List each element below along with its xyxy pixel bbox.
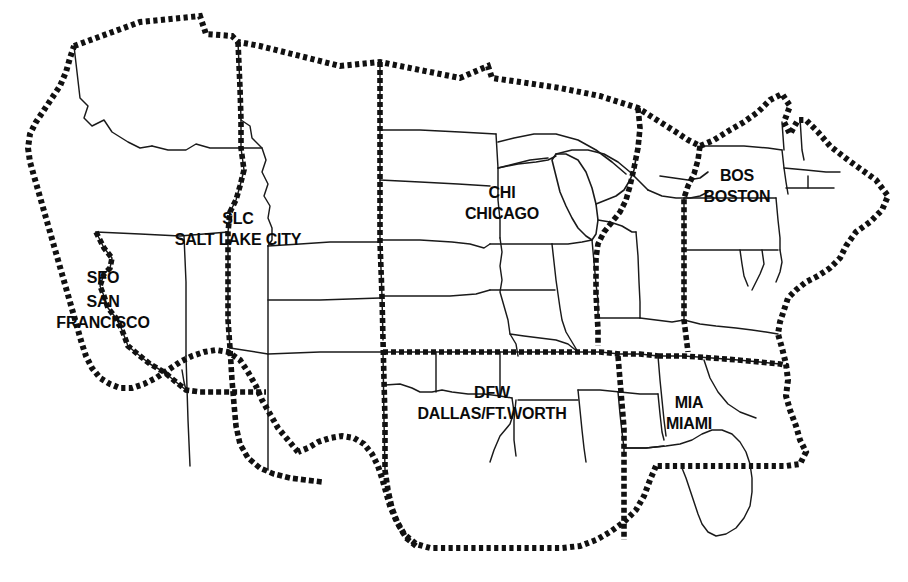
hub-label-bos: BOS BOSTON: [704, 168, 771, 205]
hub-city-bos: BOSTON: [704, 189, 771, 205]
hub-code-chi: CHI: [465, 185, 539, 201]
hub-city-sfo-line1: SAN: [86, 293, 119, 310]
hub-code-sfo: SFO: [56, 270, 149, 286]
hub-code-mia: MIA: [666, 395, 712, 411]
hub-code-dfw: DFW: [418, 385, 567, 401]
hub-label-dfw: DFW DALLAS/FT.WORTH: [418, 385, 567, 422]
hub-city-sfo-line2: FRANCISCO: [56, 314, 149, 331]
hub-city-chi: CHICAGO: [465, 206, 539, 222]
hub-code-slc: SLC: [175, 211, 302, 227]
hub-label-mia: MIA MIAMI: [666, 395, 712, 432]
hub-city-slc: SALT LAKE CITY: [175, 232, 302, 248]
hub-label-slc: SLC SALT LAKE CITY: [175, 211, 302, 248]
hub-label-sfo: SFO SAN FRANCISCO: [56, 270, 149, 333]
region-boundaries-layer: [28, 16, 888, 548]
hub-city-mia: MIAMI: [666, 416, 712, 432]
hub-city-sfo: SAN FRANCISCO: [56, 291, 149, 333]
hub-city-dfw: DALLAS/FT.WORTH: [418, 406, 567, 422]
us-hub-region-map: SFO SAN FRANCISCO SLC SALT LAKE CITY CHI…: [0, 0, 908, 582]
hub-label-chi: CHI CHICAGO: [465, 185, 539, 222]
hub-code-bos: BOS: [704, 168, 771, 184]
